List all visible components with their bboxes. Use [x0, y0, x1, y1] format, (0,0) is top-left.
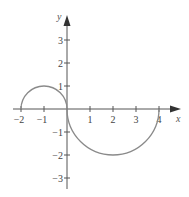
- y-tick-label: −1: [52, 127, 63, 138]
- y-tick-label: 2: [58, 58, 63, 69]
- chart: x y −2−11234321−1−2−3: [0, 0, 189, 197]
- y-tick-label: −3: [52, 173, 63, 184]
- x-tick-label: 1: [88, 114, 93, 125]
- y-tick-label: 3: [58, 35, 63, 46]
- x-tick-label: 3: [134, 114, 139, 125]
- x-axis-arrowhead: [170, 106, 181, 113]
- x-tick-label: −2: [14, 114, 25, 125]
- y-tick-label: −2: [52, 150, 63, 161]
- x-tick-label: 2: [111, 114, 116, 125]
- y-axis-label: y: [56, 11, 62, 22]
- y-tick-label: 1: [58, 81, 63, 92]
- x-tick-label: −1: [37, 114, 48, 125]
- axes: x y: [13, 11, 181, 189]
- y-axis-arrowhead: [64, 15, 71, 26]
- x-axis-label: x: [175, 113, 181, 124]
